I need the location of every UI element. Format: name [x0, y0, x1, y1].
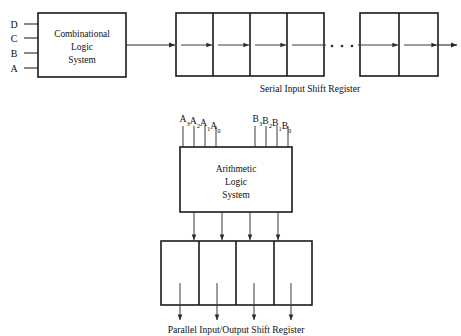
input-label-c: C — [11, 33, 18, 44]
combinational-label-line-1: Combinational — [54, 29, 110, 39]
ellipsis-dot-2 — [341, 45, 344, 48]
ellipsis-dot-1 — [331, 45, 334, 48]
arithmetic-label-line-2: Logic — [225, 177, 247, 187]
alu-output-lines — [194, 212, 278, 240]
operand-a-bus-label: A3A2A1A0 — [180, 113, 222, 134]
combinational-logic-block: Combinational Logic System — [38, 13, 126, 77]
operand-a-letter-1: A — [200, 117, 207, 128]
block-diagram-root: Combinational Logic System D C B A — [0, 0, 461, 336]
combinational-label-line-3: System — [68, 55, 96, 65]
arithmetic-logic-block: Arithmetic Logic System — [180, 147, 292, 212]
input-label-a: A — [10, 63, 18, 74]
operand-b-subscript-0: 0 — [288, 127, 292, 134]
ellipsis-dot-3 — [351, 45, 354, 48]
serial-register-ellipsis — [331, 45, 354, 48]
parallel-register-caption: Parallel Input/Output Shift Register — [168, 324, 305, 335]
operand-a-letter-3: A — [180, 113, 187, 124]
combinational-label-line-2: Logic — [71, 42, 93, 52]
parallel-shift-register: Parallel Input/Output Shift Register — [161, 241, 312, 335]
operand-a-subscript-0: 0 — [217, 127, 221, 134]
serial-input-shift-register: Serial Input Shift Register — [176, 13, 457, 94]
diagram-canvas: Combinational Logic System D C B A — [0, 0, 461, 336]
input-label-b: B — [11, 48, 18, 59]
operand-a-bus-group: A3A2A1A0 — [180, 113, 222, 147]
arithmetic-label-line-3: System — [222, 190, 250, 200]
input-label-d: D — [10, 19, 17, 30]
arithmetic-label-line-1: Arithmetic — [216, 164, 257, 174]
operand-b-bus-label: B3B2B1B0 — [253, 113, 293, 134]
combinational-input-lines — [24, 24, 38, 68]
serial-register-caption: Serial Input Shift Register — [260, 83, 361, 94]
operand-b-bus-group: B3B2B1B0 — [253, 113, 293, 147]
operand-a-letter-2: A — [190, 115, 197, 126]
